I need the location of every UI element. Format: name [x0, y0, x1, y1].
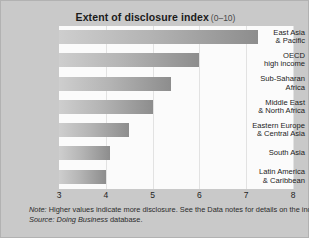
chart-title-range: (0–10)	[211, 13, 236, 23]
category-label-line: high income	[252, 60, 305, 68]
x-tick-label: 8	[291, 190, 296, 200]
source-publication: Doing Business	[57, 215, 108, 224]
note-line: Note: Higher values indicate more disclo…	[29, 205, 301, 215]
category-label-line: & Pacific	[252, 37, 305, 45]
x-tick-label: 7	[244, 190, 249, 200]
category-label: Latin America& Caribbean	[252, 168, 308, 185]
category-label: East Asia& Pacific	[252, 29, 308, 46]
note-text: Higher values indicate more disclosure. …	[49, 205, 309, 214]
category-label: Eastern Europe& Central Asia	[252, 122, 308, 139]
source-line: Source: Doing Business database.	[29, 215, 301, 225]
category-label-line: Africa	[252, 84, 305, 92]
x-tick-label: 3	[57, 190, 62, 200]
bar	[59, 170, 106, 184]
x-tick-label: 5	[150, 190, 155, 200]
source-text: database.	[110, 215, 142, 224]
x-tick-label: 6	[197, 190, 202, 200]
bar	[59, 30, 258, 44]
chart-title-row: Extent of disclosure index(0–10)	[1, 7, 309, 25]
x-tick-label: 4	[103, 190, 108, 200]
category-label-line: & Central Asia	[252, 130, 305, 138]
source-label: Source:	[29, 215, 54, 224]
bar	[59, 123, 129, 137]
category-label: OECDhigh income	[252, 52, 308, 69]
category-label: South Asia	[252, 149, 308, 157]
category-label-line: & Caribbean	[252, 177, 305, 185]
bar	[59, 77, 171, 91]
bar	[59, 146, 110, 160]
x-axis-labels: 345678	[59, 190, 293, 202]
bar	[59, 53, 199, 67]
page-title: Extent of disclosure index	[76, 11, 209, 23]
footnotes: Note: Higher values indicate more disclo…	[29, 205, 301, 224]
chart-figure: Extent of disclosure index(0–10) East As…	[0, 0, 309, 238]
category-label-line: South Asia	[252, 149, 305, 157]
category-label: Middle East& North Africa	[252, 99, 308, 116]
bar	[59, 100, 153, 114]
category-label: Sub-SaharanAfrica	[252, 75, 308, 92]
category-label-line: & North Africa	[252, 107, 305, 115]
note-label: Note:	[29, 205, 47, 214]
